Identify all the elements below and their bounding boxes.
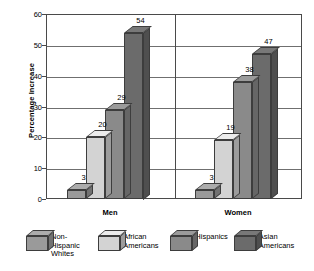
legend-swatch-front: [170, 236, 192, 251]
legend-item[interactable]: African Americans: [98, 230, 164, 251]
bar-value-label: 47: [264, 37, 272, 46]
bar-value-label: 20: [98, 120, 106, 129]
legend-swatch-icon: [170, 236, 192, 251]
y-axis-tick-label: 40: [12, 71, 42, 80]
y-axis-tick-label: 50: [12, 40, 42, 49]
chart-legend: Non-Hispanic WhitesAfrican AmericansHisp…: [26, 230, 306, 270]
y-axis-tick-label: 20: [12, 133, 42, 142]
legend-swatch-icon: [98, 236, 120, 251]
bar-value-label: 54: [136, 16, 144, 25]
group-divider: [175, 15, 176, 198]
bar-value-label: 3: [209, 173, 213, 182]
y-axis-tick-mark: [42, 137, 46, 138]
legend-label: Hispanics: [195, 230, 228, 242]
y-axis-tick-mark: [42, 45, 46, 46]
bar-side-face: [143, 27, 150, 199]
bar-value-label: 38: [245, 65, 253, 74]
bar-side-face: [271, 49, 278, 199]
y-axis-tick-label: 30: [12, 102, 42, 111]
legend-label: Asian Americans: [259, 230, 300, 250]
bar-side-face: [233, 135, 240, 199]
y-axis-tick-mark: [42, 168, 46, 169]
legend-swatch-front: [98, 236, 120, 251]
y-axis-tick-mark: [42, 199, 46, 200]
y-axis-tick-mark: [42, 107, 46, 108]
bar: [67, 190, 86, 199]
legend-item[interactable]: Hispanics: [170, 230, 228, 251]
legend-swatch-icon: [26, 236, 48, 251]
legend-label: African Americans: [123, 230, 164, 250]
bar-value-label: 19: [226, 123, 234, 132]
bar-side-face: [124, 104, 131, 199]
group-label-women: Women: [225, 208, 252, 217]
bar-side-face: [252, 76, 259, 199]
legend-swatch-front: [234, 236, 256, 251]
y-axis-tick-label: 60: [12, 10, 42, 19]
legend-item[interactable]: Non-Hispanic Whites: [26, 230, 92, 259]
bar-front-face: [195, 190, 214, 199]
group-label-men: Men: [103, 208, 118, 217]
bar: [195, 190, 214, 199]
legend-item[interactable]: Asian Americans: [234, 230, 300, 251]
bar-value-label: 3: [81, 173, 85, 182]
bar-side-face: [105, 132, 112, 199]
legend-label: Non-Hispanic Whites: [51, 230, 92, 259]
y-axis-tick-label: 0: [12, 195, 42, 204]
y-axis-tick-mark: [42, 76, 46, 77]
bar-value-label: 29: [117, 93, 125, 102]
bar-front-face: [67, 190, 86, 199]
y-axis-tick-mark: [42, 14, 46, 15]
bar-chart: Percentage Increase 0102030405060 320295…: [0, 0, 314, 271]
legend-swatch-front: [26, 236, 48, 251]
legend-swatch-icon: [234, 236, 256, 251]
y-axis-tick-label: 10: [12, 164, 42, 173]
